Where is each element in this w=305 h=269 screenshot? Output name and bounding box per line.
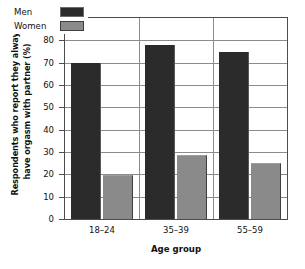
y-tick-label: 60 — [28, 81, 54, 90]
y-tick-label: 40 — [28, 126, 54, 135]
legend-item-men: Men — [14, 5, 86, 19]
legend: Men Women — [10, 4, 88, 34]
plot-area — [64, 17, 288, 220]
bar-women-2 — [177, 155, 207, 219]
y-tick-label: 80 — [28, 36, 54, 45]
legend-label-women: Women — [14, 22, 60, 31]
group-separator — [139, 18, 140, 219]
x-tick-label: 18–24 — [67, 226, 137, 235]
y-axis-title-line-1: Respondents who report they always — [10, 14, 22, 210]
x-tick-label: 55–59 — [215, 226, 285, 235]
bar-men-3 — [219, 52, 249, 220]
bar-chart-figure: Respondents who report they always have … — [0, 0, 305, 269]
legend-label-men: Men — [14, 8, 60, 17]
y-tick-label: 10 — [28, 193, 54, 202]
y-tick-label: 20 — [28, 170, 54, 179]
group-separator — [213, 18, 214, 219]
dark-square-swatch-icon — [60, 7, 84, 17]
y-tick-label: 70 — [28, 59, 54, 68]
gridline — [65, 40, 287, 41]
bar-men-1 — [71, 63, 101, 219]
bar-men-2 — [145, 45, 175, 219]
gray-square-swatch-icon — [60, 21, 84, 31]
x-axis-title: Age group — [64, 245, 288, 254]
x-tick-label: 35–39 — [141, 226, 211, 235]
y-tick-label: 30 — [28, 148, 54, 157]
y-tick-label: 0 — [28, 215, 54, 224]
bar-women-3 — [251, 163, 281, 219]
y-tick-label: 50 — [28, 103, 54, 112]
legend-item-women: Women — [14, 19, 86, 33]
bar-women-1 — [103, 175, 133, 219]
